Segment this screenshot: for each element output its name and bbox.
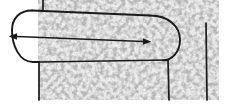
right-vertical-edge bbox=[206, 23, 207, 100]
inner-vertical-edge bbox=[168, 60, 169, 100]
drawing-canvas bbox=[0, 0, 229, 107]
technical-drawing-figure: Rounded-end slot on stippled block textu… bbox=[0, 0, 229, 107]
